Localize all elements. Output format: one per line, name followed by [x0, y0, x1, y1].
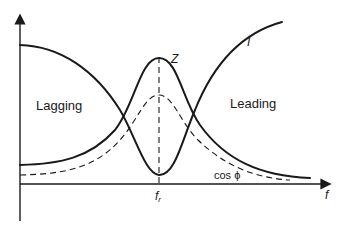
leading-label: Leading [230, 96, 276, 111]
lagging-label: Lagging [36, 98, 82, 113]
fr-sub: r [158, 195, 161, 204]
resonant-frequency-label: fr [155, 189, 161, 204]
resonance-diagram: Lagging Leading Z I cos ϕ fr f [0, 0, 344, 227]
x-axis-label-f: f [325, 188, 330, 202]
power-factor-label: cos ϕ [214, 169, 240, 181]
impedance-curve-z [20, 58, 310, 178]
impedance-label-z: Z [170, 52, 179, 66]
